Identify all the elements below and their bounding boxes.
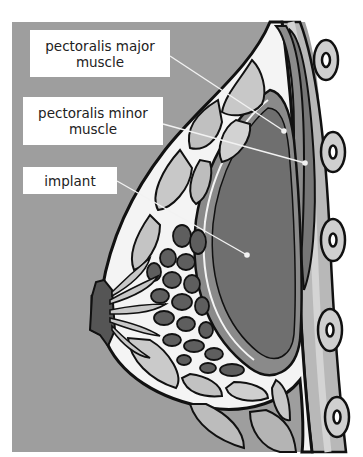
label-pectoralis-minor: pectoralis minor muscle [23,97,163,145]
breast-implant-diagram: pectoralis major muscle pectoralis minor… [0,0,363,457]
label-pectoralis-major-line2: muscle [76,54,124,70]
label-pectoralis-major: pectoralis major muscle [30,30,170,77]
label-pectoralis-major-line1: pectoralis major [45,38,154,54]
label-implant-line1: implant [44,173,95,189]
label-implant: implant [23,167,117,194]
label-pectoralis-minor-line2: muscle [69,121,117,137]
label-pectoralis-minor-line1: pectoralis minor [38,105,148,121]
